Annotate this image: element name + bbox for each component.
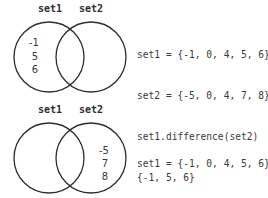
- set1-circle: [14, 123, 84, 193]
- set1-label: set1: [38, 3, 62, 14]
- set1-circle: [14, 22, 84, 92]
- venn-diagram: set1 set2 -1 5 6: [0, 0, 135, 99]
- code-line: set1 = {-1, 0, 4, 5, 6}: [137, 157, 268, 171]
- member-value: -1: [29, 37, 39, 48]
- set2-circle: [56, 22, 126, 92]
- venn-panel-set2-difference: set1 set2 -5 7 8 set1 = {-1, 0, 4, 5, 6}…: [0, 99, 268, 198]
- set1-label: set1: [38, 104, 62, 115]
- member-value: -5: [99, 145, 109, 156]
- code-block: set1 = {-1, 0, 4, 5, 6} set2 = {-5, 0, 4…: [137, 130, 268, 198]
- member-value: 6: [32, 64, 38, 75]
- venn-panel-set1-difference: set1 set2 -1 5 6 set1 = {-1, 0, 4, 5, 6}…: [0, 0, 268, 99]
- code-line: set1 = {-1, 0, 4, 5, 6}: [137, 48, 268, 62]
- set2-label: set2: [79, 3, 103, 14]
- set2-circle: [56, 123, 126, 193]
- set2-label: set2: [79, 104, 103, 115]
- member-value: 5: [32, 51, 38, 62]
- member-value: 8: [102, 171, 108, 182]
- member-value: 7: [102, 158, 108, 169]
- venn-diagram: set1 set2 -5 7 8: [0, 99, 135, 198]
